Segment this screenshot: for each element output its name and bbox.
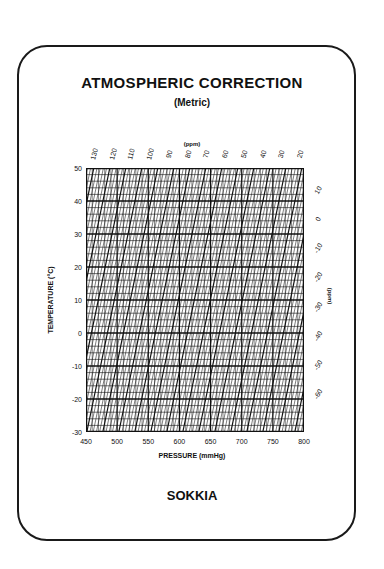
chart-title: ATMOSPHERIC CORRECTION xyxy=(0,74,384,91)
top-ppm-tick-label: 80 xyxy=(183,149,192,158)
y-tick-label: 30 xyxy=(58,231,82,238)
x-tick-label: 650 xyxy=(199,438,223,445)
x-tick-label: 500 xyxy=(105,438,129,445)
y-tick-label: -30 xyxy=(58,429,82,436)
top-ppm-tick-label: 40 xyxy=(258,149,267,158)
x-tick-label: 750 xyxy=(261,438,285,445)
brand-logo: SOKKIA xyxy=(0,488,384,503)
x-tick-label: 600 xyxy=(167,438,191,445)
y-tick-label: 40 xyxy=(58,198,82,205)
y-tick-label: 20 xyxy=(58,264,82,271)
x-tick-label: 700 xyxy=(230,438,254,445)
y-tick-label: -10 xyxy=(58,363,82,370)
y-tick-label: 0 xyxy=(58,330,82,337)
y-tick-label: -20 xyxy=(58,396,82,403)
x-tick-label: 450 xyxy=(74,438,98,445)
x-tick-label: 550 xyxy=(136,438,160,445)
right-axis-unit: (ppm) xyxy=(327,288,333,305)
nomogram-plot xyxy=(86,168,304,432)
chart-subtitle: (Metric) xyxy=(0,97,384,108)
x-tick-label: 800 xyxy=(292,438,316,445)
nomogram-grid xyxy=(86,168,304,432)
x-axis-label: PRESSURE (mmHg) xyxy=(0,452,384,459)
y-tick-label: 10 xyxy=(58,297,82,304)
y-axis-label: TEMPERATURE (°C) xyxy=(47,266,54,333)
top-axis-unit: (ppm) xyxy=(0,141,384,147)
y-tick-label: 50 xyxy=(58,165,82,172)
